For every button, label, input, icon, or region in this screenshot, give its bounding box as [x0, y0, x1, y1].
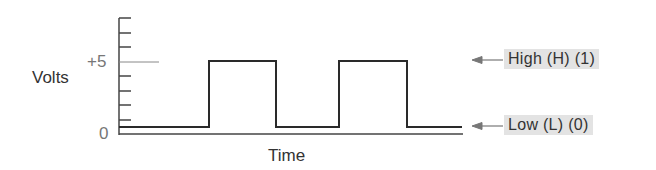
- square-waveform: [119, 61, 462, 127]
- tick-label-plus5: +5: [87, 52, 106, 72]
- y-axis-label: Volts: [32, 68, 69, 88]
- diagram-canvas: [0, 0, 656, 170]
- y-axis-ticks: [119, 18, 131, 120]
- x-axis-label: Time: [268, 146, 305, 166]
- arrow-low-icon: [472, 123, 503, 130]
- tick-label-zero: 0: [99, 124, 108, 144]
- arrow-high-icon: [472, 57, 503, 64]
- low-level-label: Low (L) (0): [504, 115, 593, 135]
- high-level-label: High (H) (1): [504, 49, 599, 69]
